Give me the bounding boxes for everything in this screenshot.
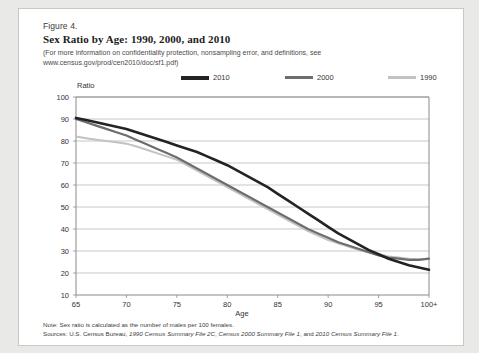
x-tick-100+: 100+ [421, 300, 439, 309]
figure-sources: Sources: U.S. Census Bureau, 1990 Census… [43, 329, 448, 338]
series-line-2000 [76, 119, 429, 260]
page-root: Figure 4. Sex Ratio by Age: 1990, 2000, … [0, 0, 479, 353]
y-tick-100: 100 [56, 93, 69, 102]
x-tick-95: 95 [374, 300, 382, 309]
figure-notes: Note: Sex ratio is calculated as the num… [43, 320, 448, 338]
line-chart: 10090807060504030201065707580859095100+ [19, 9, 465, 309]
y-tick-20: 20 [61, 269, 69, 278]
x-tick-70: 70 [122, 300, 130, 309]
y-tick-30: 30 [61, 247, 69, 256]
x-tick-85: 85 [274, 300, 282, 309]
y-tick-10: 10 [61, 291, 69, 300]
y-tick-40: 40 [61, 225, 69, 234]
y-tick-80: 80 [61, 137, 69, 146]
x-tick-80: 80 [223, 300, 231, 309]
y-tick-60: 60 [61, 181, 69, 190]
y-tick-50: 50 [61, 203, 69, 212]
figure-note: Note: Sex ratio is calculated as the num… [43, 320, 448, 329]
y-tick-90: 90 [61, 115, 69, 124]
x-tick-65: 65 [72, 300, 80, 309]
x-tick-75: 75 [173, 300, 181, 309]
x-axis-title: Age [19, 309, 465, 318]
x-tick-90: 90 [324, 300, 332, 309]
chart-plot-area: 10090807060504030201065707580859095100+ [19, 9, 465, 347]
y-tick-70: 70 [61, 159, 69, 168]
figure-card: Figure 4. Sex Ratio by Age: 1990, 2000, … [18, 8, 464, 346]
